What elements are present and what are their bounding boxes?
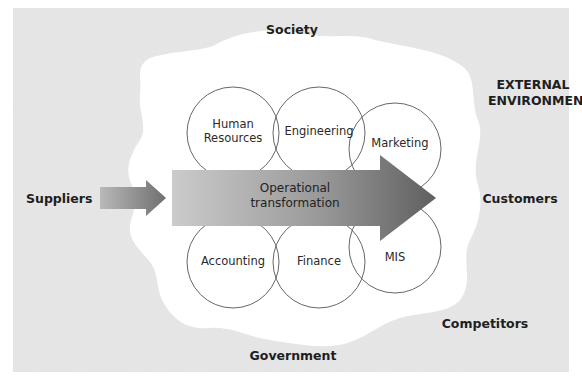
label-competitors: Competitors xyxy=(440,316,530,331)
label-human-resources-line2: Resources xyxy=(193,132,273,146)
label-external-environment-line1: EXTERNAL xyxy=(488,77,578,93)
label-suppliers: Suppliers xyxy=(26,191,96,206)
label-external-environment-line2: ENVIRONMENT xyxy=(488,93,578,109)
label-human-resources-line1: Human xyxy=(193,118,273,132)
label-mis: MIS xyxy=(370,251,420,265)
label-operational-transformation-line1: Operational xyxy=(235,181,355,196)
label-operational-transformation-line2: transformation xyxy=(235,196,355,211)
organization-environment-diagram: Society EXTERNAL ENVIRONMENT Suppliers C… xyxy=(0,0,582,385)
label-engineering: Engineering xyxy=(274,125,364,139)
label-customers: Customers xyxy=(480,191,560,206)
label-society: Society xyxy=(262,22,322,37)
label-operational-transformation: Operational transformation xyxy=(235,181,355,211)
label-finance: Finance xyxy=(279,255,359,269)
label-accounting: Accounting xyxy=(193,255,273,269)
label-external-environment: EXTERNAL ENVIRONMENT xyxy=(488,77,578,108)
label-human-resources: Human Resources xyxy=(193,118,273,146)
label-marketing: Marketing xyxy=(360,137,440,151)
label-government: Government xyxy=(248,348,338,363)
